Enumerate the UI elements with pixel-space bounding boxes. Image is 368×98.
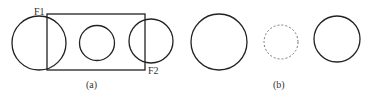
caption-b: (b) [273, 79, 285, 91]
frame-rectangle [47, 14, 145, 70]
dashed-circle [264, 25, 298, 59]
middle-circle [80, 26, 115, 61]
left-circle [12, 16, 66, 70]
label-f2: F2 [148, 65, 159, 76]
panel-a: F1 F2 (a) [12, 6, 173, 91]
right-circle [129, 19, 173, 63]
left-circle [191, 14, 247, 70]
diagram: F1 F2 (a) (b) [0, 0, 368, 98]
right-circle [314, 16, 360, 62]
caption-a: (a) [86, 79, 97, 91]
label-f1: F1 [34, 6, 45, 17]
panel-b: (b) [191, 14, 360, 91]
